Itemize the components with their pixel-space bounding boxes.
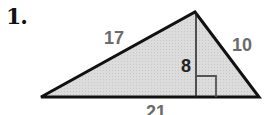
triangle-shape	[41, 12, 259, 97]
triangle-diagram: 17 10 8 21	[0, 0, 267, 115]
side-label-right: 10	[232, 35, 252, 55]
side-label-left: 17	[104, 28, 124, 48]
base-label: 21	[146, 102, 166, 115]
height-label: 8	[181, 56, 191, 76]
